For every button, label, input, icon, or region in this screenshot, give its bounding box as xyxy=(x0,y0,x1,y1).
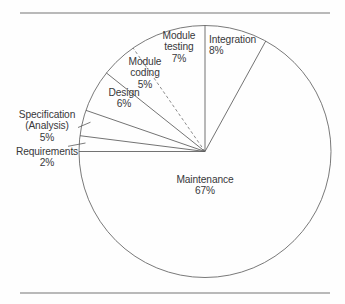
slice-label-specification-name: Specification xyxy=(19,109,75,120)
slice-label-module-testing: Module testing 7% xyxy=(155,30,203,64)
slice-label-integration-value: 8% xyxy=(209,45,256,56)
slice-label-module-coding-value: 5% xyxy=(120,79,170,90)
slice-label-module-testing-name: Module xyxy=(163,30,196,41)
slice-label-requirements: Requirements 2% xyxy=(11,146,83,169)
slice-label-integration: Integration 8% xyxy=(209,34,256,57)
slice-label-requirements-value: 2% xyxy=(11,157,83,168)
slice-label-module-coding-sub: coding xyxy=(120,67,170,78)
divider-requirements-specification xyxy=(80,136,205,152)
slice-label-module-testing-sub: testing xyxy=(155,41,203,52)
divider-specification-design xyxy=(86,110,205,151)
slice-label-maintenance-value: 67% xyxy=(147,185,263,196)
slice-label-design: Design 6% xyxy=(100,87,148,110)
slice-label-design-value: 6% xyxy=(100,98,148,109)
slice-label-maintenance-name: Maintenance xyxy=(176,174,233,185)
slice-label-requirements-name: Requirements xyxy=(16,146,78,157)
pie-chart-figure: Integration 8% Maintenance 67% Requireme… xyxy=(0,0,345,304)
slice-label-specification-sub: (Analysis) xyxy=(12,120,82,131)
slice-label-integration-name: Integration xyxy=(209,34,256,45)
slice-label-maintenance: Maintenance 67% xyxy=(147,174,263,197)
divider-integration-maintenance xyxy=(205,41,266,151)
slice-label-module-testing-value: 7% xyxy=(155,53,203,64)
slice-label-specification-value: 5% xyxy=(12,132,82,143)
slice-label-specification: Specification (Analysis) 5% xyxy=(12,109,82,143)
